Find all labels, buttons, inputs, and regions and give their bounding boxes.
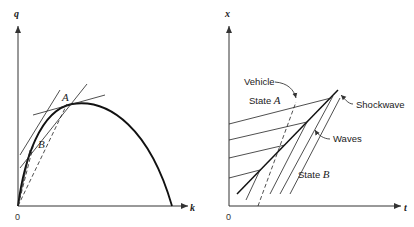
- wave-line: [270, 122, 307, 194]
- x-axis-label: x: [224, 8, 230, 19]
- vehicle-label: Vehicle: [244, 76, 275, 87]
- diagram-canvas: q k 0 A B x t 0: [0, 0, 414, 227]
- origin-label-right: 0: [226, 212, 231, 222]
- wave-line: [246, 170, 260, 200]
- ray-origin-steep: [18, 150, 30, 206]
- origin-label: 0: [15, 212, 20, 222]
- flow-density-curve: [18, 103, 172, 206]
- k-axis-label: k: [190, 202, 195, 213]
- state-a-label: State A: [249, 94, 281, 106]
- waves-label: Waves: [333, 133, 362, 144]
- state-b-label: State B: [298, 168, 330, 180]
- chord-a-b: [20, 84, 87, 168]
- state-a-trajectory: [229, 170, 260, 178]
- flow-density-panel: q k 0 A B: [14, 8, 195, 222]
- point-b-label: B: [38, 138, 45, 150]
- t-axis-label: t: [404, 202, 408, 213]
- time-space-panel: x t 0 Vehicle State A Shockwave Waves St…: [224, 8, 408, 222]
- point-a-label: A: [61, 91, 69, 103]
- ray-origin-to-a: [18, 104, 67, 206]
- shockwave-label: Shockwave: [356, 99, 405, 110]
- state-a-trajectory: [229, 122, 307, 140]
- shockwave-leader-arrow: [341, 95, 353, 104]
- q-axis-label: q: [14, 8, 19, 19]
